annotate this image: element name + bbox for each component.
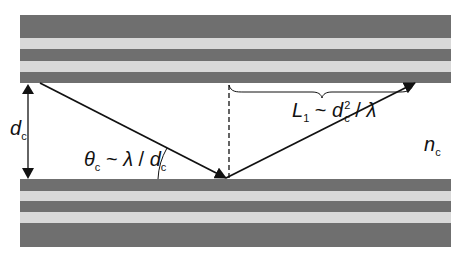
label-lambda: λ [123,148,133,170]
label-lambda: λ [366,99,376,121]
label-theta: θ [84,148,95,170]
label-d-subscript: c [344,112,350,124]
waveguide-diagram: dc θc ~ λ / dc L1 ~ d2c / λ nc [0,0,463,259]
label-d: d [150,148,161,170]
reflected-ray [226,83,415,178]
label-n-subscript: c [435,146,441,158]
label-slash: / [133,148,150,170]
angle-label: θc ~ λ / dc [84,149,166,169]
label-L-subscript: 1 [303,112,309,124]
label-slash: / [350,99,367,121]
length-brace [229,85,413,98]
label-L: L [292,99,303,121]
ray-geometry [0,0,463,259]
label-d-subscript: c [21,130,27,142]
label-d: d [10,117,21,139]
label-n: n [424,133,435,155]
label-d: d [332,99,343,121]
label-theta-subscript: c [95,161,101,173]
label-tilde: ~ [309,99,332,121]
label-d-subscript: c [161,161,167,173]
label-d-superscript: 2 [344,99,350,111]
length-label: L1 ~ d2c / λ [292,100,376,120]
label-tilde: ~ [100,148,123,170]
core-thickness-label: dc [10,118,27,138]
core-index-label: nc [424,134,441,154]
